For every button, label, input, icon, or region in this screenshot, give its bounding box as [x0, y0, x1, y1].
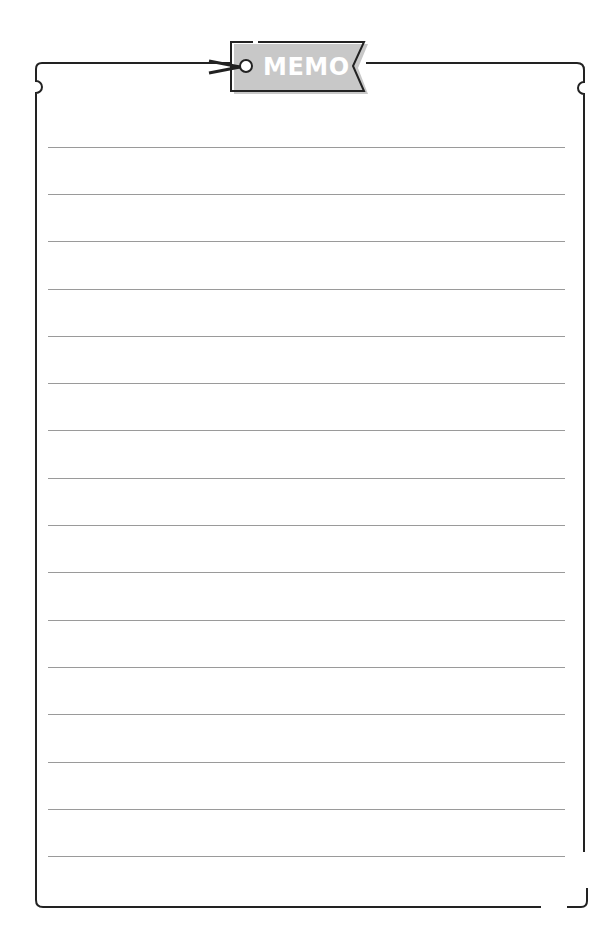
border-left — [36, 63, 541, 907]
ruled-line — [48, 572, 565, 573]
ruled-line — [48, 241, 565, 242]
ruled-line — [48, 714, 565, 715]
ruled-line — [48, 336, 565, 337]
ruled-line — [48, 289, 565, 290]
border-corner-bottom-right — [567, 888, 587, 907]
ruled-line — [48, 147, 565, 148]
ruled-line — [48, 856, 565, 857]
ruled-line — [48, 430, 565, 431]
ruled-line — [48, 809, 565, 810]
ruled-line — [48, 620, 565, 621]
ruled-line — [48, 383, 565, 384]
ruled-line — [48, 478, 565, 479]
ruled-line — [48, 762, 565, 763]
ruled-line — [48, 667, 565, 668]
border-right — [366, 63, 584, 852]
memo-frame — [0, 0, 613, 937]
tag-hole-icon — [240, 60, 252, 72]
ruled-line — [48, 525, 565, 526]
memo-tag-label: MEMO — [263, 50, 353, 84]
ruled-line — [48, 194, 565, 195]
